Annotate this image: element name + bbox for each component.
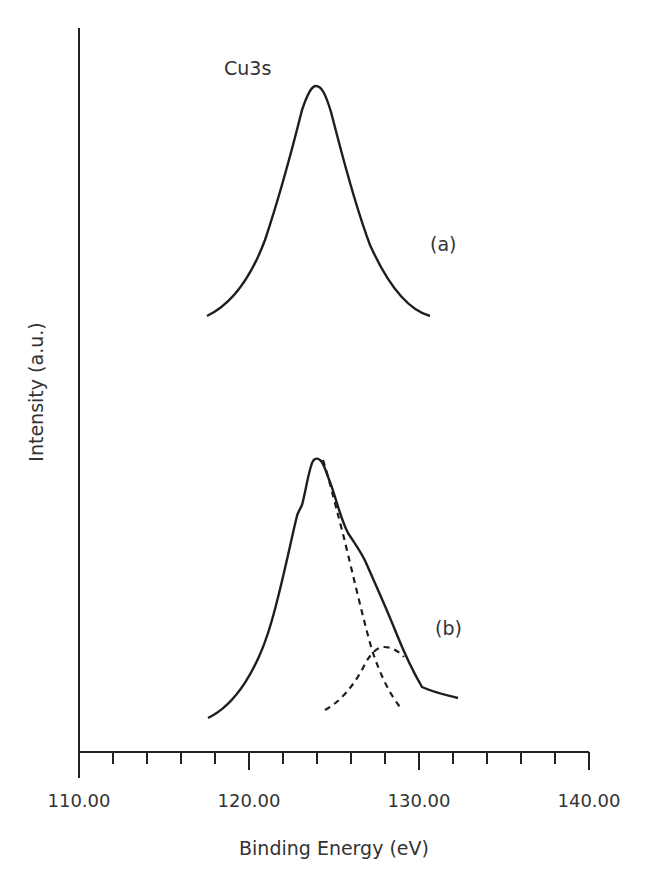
curve-a (207, 86, 430, 316)
curve-b (208, 459, 458, 718)
fit-component-2 (325, 647, 404, 710)
label-b: (b) (435, 617, 462, 639)
y-axis-label: Intensity (a.u.) (25, 322, 47, 461)
x-tick-label: 110.00 (48, 790, 111, 811)
x-tick-label: 140.00 (558, 790, 621, 811)
x-axis-label: Binding Energy (eV) (239, 837, 429, 859)
label-a: (a) (430, 233, 456, 255)
xps-chart (0, 0, 648, 876)
chart-title: Cu3s (224, 57, 271, 79)
x-tick-label: 120.00 (218, 790, 281, 811)
x-tick-label: 130.00 (388, 790, 451, 811)
x-axis-ticks (79, 752, 589, 770)
